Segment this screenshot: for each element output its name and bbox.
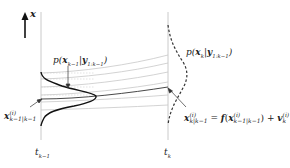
highlighted-trajectory (41, 87, 168, 99)
eq-lhs-sub: k|k−1 (189, 118, 207, 124)
prior-y-sub: 1:k−1 (212, 53, 228, 59)
eq-arg-sub: k−1|k−1 (234, 118, 261, 124)
time-left-sub: k−1 (39, 153, 50, 159)
posterior-close: ) (104, 55, 108, 65)
posterior-label: p(xk−1|y1:k−1) (53, 56, 107, 65)
posterior-y-sub: 1:k−1 (87, 61, 103, 67)
prediction-equation: x(i)k|k−1 = f(x(i)k−1|k−1) + v(i)k (184, 112, 289, 124)
posterior-x-sub: k−1 (68, 61, 79, 67)
time-label-k-minus-1: tk−1 (35, 148, 50, 157)
eq-v-sub: k (283, 118, 290, 124)
eq-plus: + (264, 113, 277, 123)
particle-label: x(i)k−1|k−1 (4, 110, 36, 122)
prior-label: p(xk|y1:k−1) (186, 48, 232, 57)
eq-equals: = (208, 113, 221, 123)
time-label-k: tk (164, 148, 171, 157)
axis-label: x (30, 9, 36, 19)
prior-close: ) (229, 47, 233, 57)
time-right-sub: k (168, 153, 171, 159)
prior-p: p( (186, 47, 195, 57)
prior-density-curve (168, 25, 187, 125)
posterior-p: p( (53, 55, 62, 65)
particle-sub: k−1|k−1 (9, 116, 36, 122)
x-axis-arrow-icon (22, 12, 29, 38)
particle-filter-diagram (0, 0, 290, 168)
